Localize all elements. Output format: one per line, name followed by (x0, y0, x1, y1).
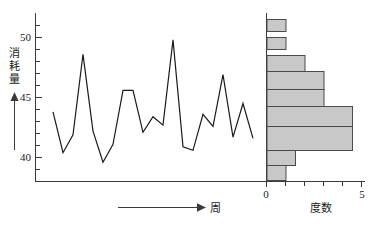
histogram-bar (267, 90, 324, 107)
figure-container: 50 45 40 消 耗 量 周 (0, 0, 381, 227)
histogram-bar (267, 38, 286, 50)
consumption-series-line (53, 40, 253, 162)
x-axis-title-week: 周 (210, 202, 221, 215)
hist-x-axis-title-frequency: 度数 (310, 201, 332, 215)
histogram-bar (267, 151, 296, 166)
histogram-bar (267, 72, 324, 90)
histogram-bar (267, 166, 286, 181)
y-axis-title-char-1: 消 (9, 46, 20, 60)
histogram-bar (267, 127, 353, 151)
x-axis-direction-arrow-icon (118, 203, 206, 212)
y-tick-label-45: 45 (20, 91, 32, 103)
y-tick-label-50: 50 (20, 31, 32, 43)
histogram-bar (267, 56, 305, 72)
y-axis-direction-arrow-icon (11, 92, 19, 150)
y-axis-title-char-2: 耗 (9, 60, 20, 73)
y-axis-title-char-3: 量 (9, 73, 20, 86)
histogram-panel: 0 5 度数 (263, 13, 365, 215)
histogram-bar (267, 107, 353, 127)
histogram-bar (267, 20, 286, 32)
y-tick-label-40: 40 (20, 151, 32, 163)
hist-x-tick-label-0: 0 (263, 188, 269, 200)
combined-chart-svg: 50 45 40 消 耗 量 周 (0, 0, 381, 227)
hist-x-tick-label-5: 5 (359, 188, 365, 200)
